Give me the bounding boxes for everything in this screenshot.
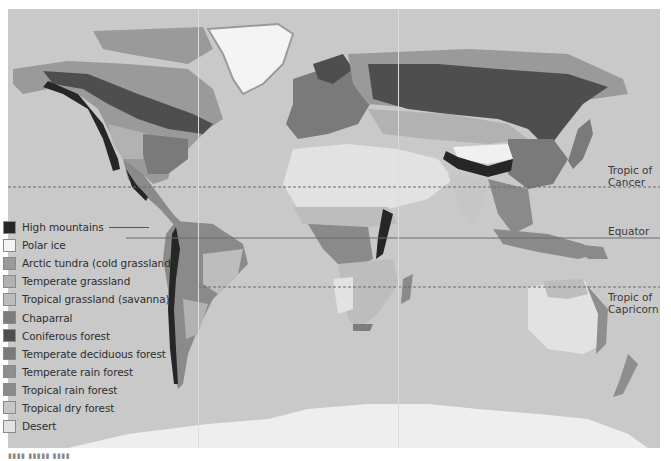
legend-item-tropical-grassland: Tropical grassland (savanna) [3,290,173,308]
swatch-temperate-deciduous-forest [3,347,16,360]
legend-label: Tropical grassland (savanna) [22,293,169,305]
east-asia-deciduous [508,139,568,189]
leader-line [109,227,149,228]
legend-label: Chaparral [22,312,72,324]
legend-label: Coniferous forest [22,330,110,342]
swatch-coniferous-forest [3,329,16,342]
legend-label: Polar ice [22,239,66,251]
legend-label: Desert [22,420,56,432]
swatch-tropical-dry-forest [3,401,16,414]
greenland [208,24,293,94]
swatch-chaparral [3,311,16,324]
swatch-polar-ice [3,239,16,252]
na-deciduous [143,134,188,174]
tropic-of-capricorn-label: Tropic of Capricorn [608,291,659,315]
india [448,174,488,224]
legend-label: Tropical rain forest [22,384,117,396]
legend-item-coniferous-forest: Coniferous forest [3,327,173,345]
tropic-of-cancer-label: Tropic of Cancer [608,164,652,188]
africa-cape [353,324,373,331]
legend-label: Temperate grassland [22,275,130,287]
legend-item-chaparral: Chaparral [3,308,173,326]
swatch-high-mountains [3,221,16,234]
japan [568,119,593,169]
indonesia [493,229,598,259]
label-line: Cancer [608,176,652,188]
legend-label: Temperate deciduous forest [22,348,166,360]
swatch-arctic-tundra [3,257,16,270]
equator-label: Equator [608,225,649,237]
legend-label: Temperate rain forest [22,366,133,378]
legend-label: Tropical dry forest [22,402,114,414]
figure-caption-fragment: ▮▮▮▮ ▮▮▮▮▮ ▮▮▮▮ [8,452,70,460]
swatch-desert [3,420,16,433]
label-line: Equator [608,225,649,237]
legend-item-temperate-rain-forest: Temperate rain forest [3,363,173,381]
biome-legend: High mountains Polar ice Arctic tundra (… [3,218,173,435]
madagascar [401,274,413,304]
legend-item-temperate-grassland: Temperate grassland [3,272,173,290]
legend-item-tropical-rain-forest: Tropical rain forest [3,381,173,399]
legend-label: High mountains [22,221,104,233]
kalahari [333,277,353,314]
swatch-tropical-rain-forest [3,383,16,396]
legend-item-tropical-dry-forest: Tropical dry forest [3,399,173,417]
legend-item-temperate-deciduous-forest: Temperate deciduous forest [3,345,173,363]
page-fold-line [198,9,199,448]
legend-item-arctic-tundra: Arctic tundra (cold grassland) [3,254,173,272]
legend-item-desert: Desert [3,417,173,435]
sa-grassland [183,299,208,339]
swatch-tropical-grassland [3,293,16,306]
arctic-islands [93,27,213,64]
swatch-temperate-rain-forest [3,365,16,378]
new-zealand [613,354,638,397]
label-line: Tropic of [608,164,652,176]
swatch-temperate-grassland [3,275,16,288]
legend-item-high-mountains: High mountains [3,218,173,236]
legend-label: Arctic tundra (cold grassland) [22,257,175,269]
legend-item-polar-ice: Polar ice [3,236,173,254]
page-fold-line [398,9,399,448]
label-line: Tropic of [608,291,659,303]
north-africa-middle-east [283,144,453,214]
label-line: Capricorn [608,303,659,315]
